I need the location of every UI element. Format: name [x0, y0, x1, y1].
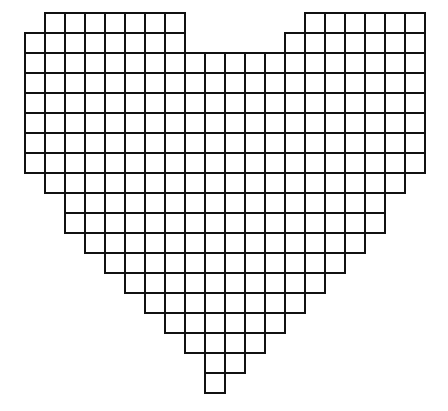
grid-cell — [145, 153, 165, 173]
grid-cell — [185, 113, 205, 133]
grid-cell — [185, 253, 205, 273]
grid-cell — [225, 113, 245, 133]
grid-cell — [325, 213, 345, 233]
grid-cell — [245, 273, 265, 293]
grid-cell — [185, 293, 205, 313]
grid-cell — [205, 253, 225, 273]
grid-cell — [345, 193, 365, 213]
grid-cell — [45, 13, 65, 33]
grid-cell — [245, 113, 265, 133]
grid-cell — [205, 293, 225, 313]
grid-cell — [65, 133, 85, 153]
grid-cell — [165, 53, 185, 73]
grid-cell — [385, 33, 405, 53]
grid-cell — [205, 113, 225, 133]
grid-cell — [145, 233, 165, 253]
grid-cell — [145, 53, 165, 73]
grid-cell — [145, 73, 165, 93]
grid-cell — [45, 153, 65, 173]
grid-cell — [85, 193, 105, 213]
grid-cell — [125, 133, 145, 153]
grid-cell — [85, 33, 105, 53]
grid-cell — [285, 253, 305, 273]
grid-cell — [265, 213, 285, 233]
grid-cell — [305, 153, 325, 173]
grid-cell — [165, 193, 185, 213]
grid-cell — [385, 133, 405, 153]
grid-cell — [225, 293, 245, 313]
grid-cell — [105, 253, 125, 273]
grid-cell — [265, 233, 285, 253]
grid-cell — [165, 93, 185, 113]
grid-cell — [405, 73, 425, 93]
grid-cell — [45, 133, 65, 153]
grid-cell — [245, 253, 265, 273]
grid-cell — [45, 53, 65, 73]
grid-cell — [405, 153, 425, 173]
grid-cell — [325, 233, 345, 253]
grid-cell — [245, 213, 265, 233]
grid-cell — [385, 113, 405, 133]
grid-cell — [265, 173, 285, 193]
grid-cell — [285, 73, 305, 93]
grid-cell — [205, 273, 225, 293]
grid-cell — [125, 33, 145, 53]
grid-cell — [25, 33, 45, 53]
grid-cell — [325, 193, 345, 213]
grid-cell — [225, 253, 245, 273]
grid-cell — [405, 133, 425, 153]
grid-cell — [305, 253, 325, 273]
grid-cell — [345, 73, 365, 93]
grid-cell — [285, 273, 305, 293]
grid-cell — [245, 93, 265, 113]
grid-cell — [325, 93, 345, 113]
grid-cell — [185, 233, 205, 253]
grid-cell — [225, 73, 245, 93]
grid-cell — [365, 213, 385, 233]
grid-cell — [345, 93, 365, 113]
grid-cell — [245, 173, 265, 193]
grid-cell — [85, 133, 105, 153]
grid-cell — [345, 113, 365, 133]
grid-cell — [185, 93, 205, 113]
grid-cell — [305, 93, 325, 113]
grid-cell — [185, 133, 205, 153]
grid-cell — [85, 173, 105, 193]
grid-cell — [265, 113, 285, 133]
grid-cell — [165, 33, 185, 53]
grid-cell — [145, 213, 165, 233]
grid-cell — [145, 93, 165, 113]
grid-cell — [25, 93, 45, 113]
grid-cell — [325, 53, 345, 73]
grid-cell — [265, 193, 285, 213]
grid-cell — [245, 193, 265, 213]
grid-cell — [45, 113, 65, 133]
grid-cell — [65, 193, 85, 213]
grid-cell — [65, 93, 85, 113]
grid-cell — [225, 233, 245, 253]
grid-cell — [85, 233, 105, 253]
grid-cell — [385, 153, 405, 173]
grid-cell — [285, 33, 305, 53]
grid-cell — [165, 153, 185, 173]
grid-cell — [365, 113, 385, 133]
grid-cell — [245, 233, 265, 253]
grid-cell — [105, 73, 125, 93]
grid-cell — [325, 153, 345, 173]
grid-cell — [385, 173, 405, 193]
image-canvas — [0, 0, 448, 411]
grid-cell — [365, 173, 385, 193]
grid-cell — [225, 173, 245, 193]
grid-cell — [125, 53, 145, 73]
grid-cell — [365, 93, 385, 113]
grid-cell — [145, 193, 165, 213]
grid-cell — [325, 13, 345, 33]
grid-cell — [345, 213, 365, 233]
grid-cell — [185, 73, 205, 93]
grid-cell — [245, 73, 265, 93]
grid-cell — [45, 93, 65, 113]
grid-cell — [365, 33, 385, 53]
grid-cell — [105, 133, 125, 153]
grid-cell — [265, 133, 285, 153]
grid-cell — [25, 133, 45, 153]
